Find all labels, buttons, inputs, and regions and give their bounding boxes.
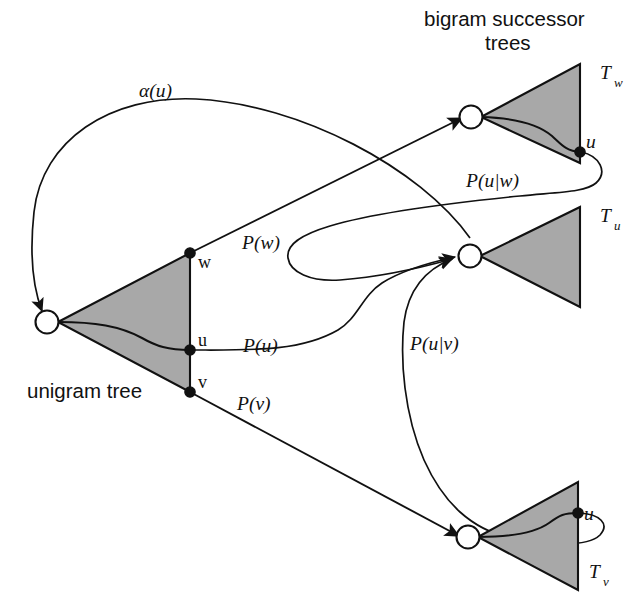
Tw-leaf-node-u — [575, 147, 585, 157]
Tv-leaf-node-u — [573, 508, 583, 518]
tree-name-Tv-base: T — [589, 561, 601, 582]
alpha-back-edge-group — [32, 99, 470, 311]
unigram-node-v — [185, 387, 195, 397]
node-label-v: v — [198, 372, 207, 392]
bigram-successor-tree-diagram: bigram successor trees unigram tree α(u)… — [0, 0, 640, 605]
unigram-to-bigram-edges — [190, 118, 462, 536]
node-label-u: u — [198, 330, 207, 350]
tree-name-Tv: T v — [589, 561, 609, 589]
figure-canvas: bigram successor trees unigram tree α(u)… — [0, 0, 640, 605]
edge-label-p-w: P(w) — [241, 232, 280, 254]
leaf-label-u-Tw: u — [586, 131, 596, 152]
bigram-tree-Tw — [460, 64, 586, 163]
bigram-tree-Tu — [459, 207, 581, 307]
bigram-caption-line1: bigram successor — [424, 7, 585, 30]
unigram-tree — [36, 248, 196, 397]
tree-name-Tw: T w — [600, 62, 623, 90]
tree-name-Tu-subscript: u — [614, 218, 621, 233]
tree-name-Tu-base: T — [600, 205, 612, 226]
edge-p-w — [190, 118, 462, 253]
tree-name-Tv-subscript: v — [603, 574, 609, 589]
edge-alpha-u — [32, 99, 470, 311]
Tu-root-node — [459, 245, 482, 268]
bigram-caption-line2: trees — [485, 31, 531, 54]
edge-label-p-u-given-w: P(u|w) — [465, 170, 519, 192]
edge-label-p-u-given-v: P(u|v) — [409, 333, 459, 355]
Tv-root-node — [457, 526, 480, 549]
Tu-triangle — [480, 207, 580, 307]
unigram-node-u — [185, 345, 195, 355]
leaf-label-u-Tv: u — [584, 503, 594, 524]
edge-label-alpha-u: α(u) — [139, 80, 172, 102]
unigram-root-node — [36, 311, 59, 334]
tree-name-Tw-base: T — [600, 62, 612, 83]
Tw-root-node — [460, 106, 483, 129]
edge-label-p-v: P(v) — [236, 393, 271, 415]
edge-label-p-u: P(u) — [242, 335, 278, 357]
node-label-w: w — [198, 252, 211, 272]
bigram-tree-Tv — [457, 482, 584, 590]
tree-name-Tw-subscript: w — [614, 75, 623, 90]
unigram-node-w — [185, 248, 195, 258]
edge-p-v — [190, 392, 459, 536]
unigram-caption: unigram tree — [27, 379, 142, 402]
tree-name-Tu: T u — [600, 205, 621, 233]
